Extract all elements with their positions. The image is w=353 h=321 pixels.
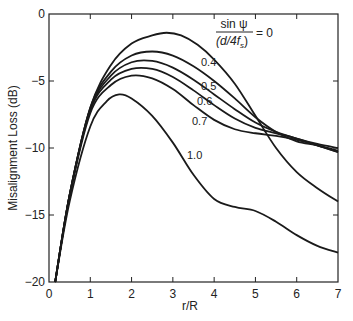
- y-axis-title: Misalignment Loss (dB): [6, 85, 20, 210]
- x-tick-label: 5: [252, 287, 259, 301]
- chart: 012345670−5−10−15−20 0.40.50.60.71.0 r/R…: [0, 0, 353, 321]
- x-tick-label: 4: [211, 287, 218, 301]
- series-label: 0.4: [201, 56, 216, 68]
- x-tick-label: 2: [128, 287, 135, 301]
- x-tick-label: 6: [293, 287, 300, 301]
- y-tick-label: −10: [25, 141, 46, 155]
- series-label: 0.6: [197, 95, 212, 107]
- axes: [49, 14, 338, 282]
- x-tick-label: 7: [335, 287, 342, 301]
- y-tick-label: −5: [31, 74, 45, 88]
- legend-denominator: (d/4fs): [216, 34, 248, 50]
- x-tick-label: 3: [170, 287, 177, 301]
- x-tick-label: 1: [87, 287, 94, 301]
- legend-numerator: sin ψ: [220, 17, 247, 31]
- series-label: 0.5: [201, 80, 216, 92]
- x-tick-label: 0: [46, 287, 53, 301]
- plot-frame: [49, 14, 338, 282]
- y-tick-label: 0: [38, 7, 45, 21]
- y-tick-label: −15: [25, 208, 46, 222]
- series-label: 1.0: [187, 149, 202, 161]
- series-label: 0.7: [192, 115, 207, 127]
- legend-equals: = 0: [256, 26, 273, 40]
- legend-annotation: sin ψ (d/4fs) = 0: [216, 17, 273, 50]
- y-tick-label: −20: [25, 275, 46, 289]
- ticks: 012345670−5−10−15−20: [25, 7, 342, 301]
- curves: 0.40.50.60.71.0: [55, 33, 338, 282]
- x-axis-title: r/R: [182, 299, 198, 313]
- curve-0-4: [55, 52, 338, 282]
